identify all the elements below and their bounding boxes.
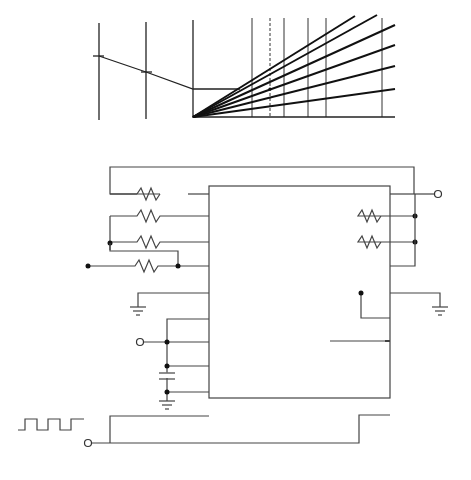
wire-agnd xyxy=(361,293,390,318)
panel-d-schematic xyxy=(0,0,448,447)
vin-terminal xyxy=(86,264,91,269)
resistor-r2a xyxy=(110,210,209,222)
resistor-r3a xyxy=(110,236,209,248)
line-n6 xyxy=(193,16,355,117)
wire-clka xyxy=(110,416,209,443)
ground-icon-left-cap xyxy=(159,401,175,409)
figure xyxy=(0,0,471,480)
pos-supply-terminal xyxy=(137,339,144,346)
wire-lp-loop xyxy=(110,167,414,194)
vout-terminal xyxy=(435,191,442,198)
nomograph-line xyxy=(99,56,240,89)
wire-slb xyxy=(390,293,440,307)
clock-input-terminal xyxy=(85,440,92,447)
resistor-r3b xyxy=(358,236,415,248)
line-n5 xyxy=(193,15,377,117)
wire-clk-bus xyxy=(91,415,390,443)
resistor-r2b xyxy=(358,210,415,222)
panel-c-chart xyxy=(0,0,395,120)
wire-invb xyxy=(390,194,415,266)
line-n2 xyxy=(193,66,395,117)
ground-icon-sla xyxy=(130,307,146,315)
resistor-rin xyxy=(88,260,209,272)
wire-sla xyxy=(138,293,209,307)
clock-waveform-icon xyxy=(18,419,84,430)
ground-icon-right xyxy=(432,307,448,315)
wire-sab xyxy=(167,319,209,401)
line-n3 xyxy=(193,45,395,117)
